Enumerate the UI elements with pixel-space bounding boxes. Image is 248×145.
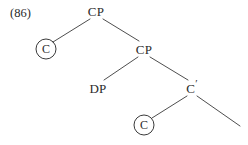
tree-node-prime-mark: ′ bbox=[195, 77, 198, 89]
tree-node-label: DP bbox=[89, 81, 106, 96]
tree-node-cp-second: CP bbox=[136, 43, 152, 56]
tree-node-label: CP bbox=[136, 42, 152, 57]
tree-node-label: C bbox=[42, 43, 50, 55]
tree-node-dp: DP bbox=[89, 82, 106, 95]
tree-branch bbox=[104, 57, 138, 80]
tree-node-label: C bbox=[140, 119, 148, 131]
tree-node-label: C bbox=[186, 81, 195, 96]
tree-branch bbox=[197, 96, 240, 126]
tree-node-circled-c-left: C bbox=[36, 39, 57, 60]
tree-node-circled-c-bottom: C bbox=[134, 115, 155, 136]
tree-node-c-bar: C′ bbox=[186, 82, 197, 95]
tree-branch bbox=[152, 96, 187, 118]
tree-branch bbox=[103, 19, 139, 41]
syntax-tree-figure: (86) CPCCPDPC′C bbox=[0, 0, 248, 145]
tree-node-label: CP bbox=[88, 4, 104, 19]
tree-branch-layer bbox=[0, 0, 248, 145]
tree-branch bbox=[150, 57, 188, 80]
tree-branch bbox=[53, 19, 90, 42]
tree-node-cp-root: CP bbox=[88, 5, 104, 18]
